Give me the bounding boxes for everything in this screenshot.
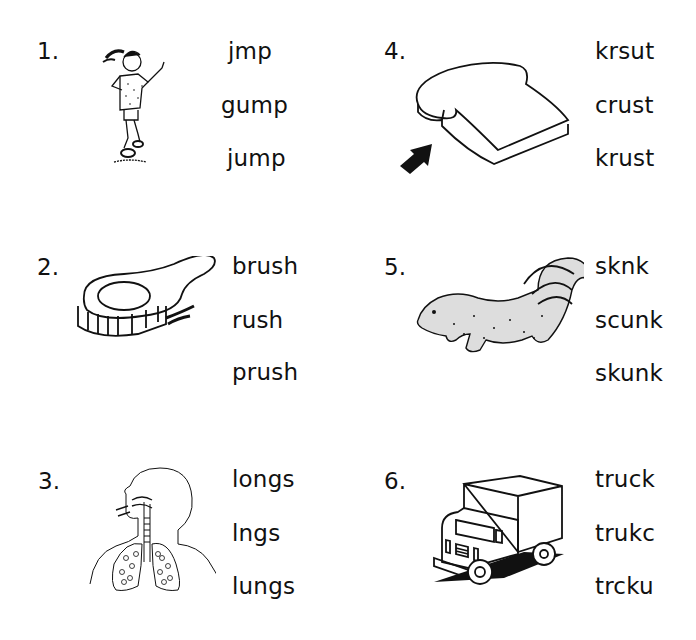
choice-word[interactable]: jmp [228, 38, 272, 64]
girl-jumping-icon [98, 40, 173, 165]
choice-word[interactable]: gump [221, 92, 288, 118]
item-number: 3. [38, 468, 60, 494]
choice-word[interactable]: crust [595, 92, 654, 118]
choice-word[interactable]: krsut [595, 38, 654, 64]
choice-word[interactable]: scunk [595, 307, 663, 333]
choice-word[interactable]: trukc [595, 520, 655, 546]
choice-word[interactable]: lngs [232, 520, 280, 546]
item-number: 1. [37, 38, 59, 64]
hair-brush-icon [74, 256, 224, 352]
choice-word[interactable]: skunk [595, 360, 663, 386]
choice-word[interactable]: prush [232, 359, 298, 385]
choice-word[interactable]: rush [232, 307, 283, 333]
item-number: 5. [384, 254, 406, 280]
choice-word[interactable]: krust [595, 145, 654, 171]
bread-slice-with-arrow-icon [396, 54, 576, 174]
choice-word[interactable]: truck [595, 466, 655, 492]
item-number: 6. [384, 468, 406, 494]
truck-icon [430, 474, 570, 590]
choice-word[interactable]: brush [232, 253, 298, 279]
skunk-icon [414, 254, 584, 374]
choice-word[interactable]: lungs [232, 573, 295, 599]
choice-word[interactable]: sknk [595, 253, 649, 279]
item-number: 2. [37, 254, 59, 280]
choice-word[interactable]: trcku [595, 573, 654, 599]
lungs-diagram-icon [86, 462, 216, 592]
choice-word[interactable]: jump [227, 145, 286, 171]
choice-word[interactable]: longs [232, 466, 295, 492]
